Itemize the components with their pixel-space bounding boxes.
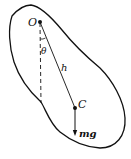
vertical-reference-dashed-line <box>40 23 41 103</box>
weight-label: mg <box>79 128 97 139</box>
center-of-mass-label: C <box>78 98 87 111</box>
center-of-mass-dot <box>73 106 77 110</box>
distance-label: h <box>61 62 67 73</box>
physical-pendulum-diagram: O θ h C mg <box>0 0 131 159</box>
pivot-point-dot <box>38 20 42 24</box>
pivot-to-center-line <box>40 22 75 108</box>
weight-arrow-head-icon <box>73 130 77 136</box>
angle-arc <box>40 38 45 39</box>
body-outline <box>10 5 126 148</box>
pivot-label: O <box>28 16 37 29</box>
angle-label: θ <box>41 46 47 56</box>
